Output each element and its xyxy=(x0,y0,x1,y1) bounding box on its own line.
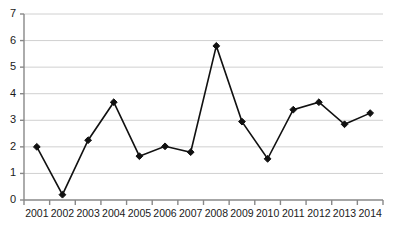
x-axis-tick-label: 2003 xyxy=(75,208,101,219)
y-axis-tick-label: 1 xyxy=(2,167,16,178)
x-axis-tick-label: 2007 xyxy=(178,208,204,219)
y-axis-tick-label: 3 xyxy=(2,114,16,125)
x-axis-tick-label: 2013 xyxy=(332,208,358,219)
x-axis-tick-label: 2012 xyxy=(306,208,332,219)
x-axis-tick-label: 2008 xyxy=(204,208,230,219)
x-axis-tick-label: 2004 xyxy=(101,208,127,219)
y-axis-tick-label: 0 xyxy=(2,194,16,205)
x-axis-tick-label: 2006 xyxy=(152,208,178,219)
y-gridlines xyxy=(24,14,383,173)
y-axis-tick-label: 6 xyxy=(2,35,16,46)
line-chart: 01234567 2001200220032004200520062007200… xyxy=(0,0,400,236)
x-axis-tick-label: 2010 xyxy=(255,208,281,219)
x-axis-tick-label: 2011 xyxy=(280,208,306,219)
y-axis-tick-label: 4 xyxy=(2,88,16,99)
x-axis-tick-label: 2002 xyxy=(50,208,76,219)
x-axis-tick-label: 2005 xyxy=(127,208,153,219)
y-axis-tick-label: 7 xyxy=(2,8,16,19)
y-axis-tick-label: 2 xyxy=(2,141,16,152)
chart-plot-area xyxy=(0,0,400,236)
y-axis-tick-label: 5 xyxy=(2,61,16,72)
x-axis-tick-label: 2014 xyxy=(357,208,383,219)
x-axis-tick-label: 2001 xyxy=(24,208,50,219)
x-axis-tick-label: 2009 xyxy=(229,208,255,219)
x-axis-ticks xyxy=(24,200,383,205)
